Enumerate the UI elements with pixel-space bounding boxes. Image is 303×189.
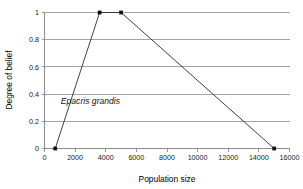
chart-figure: 0200040006000800010000120001400016000 00…: [0, 0, 303, 189]
y-tick-label: 0: [35, 144, 39, 153]
x-tick-label: 0: [43, 153, 47, 162]
x-tick-label: 14000: [249, 153, 269, 162]
chart-plot-area: 0200040006000800010000120001400016000 00…: [0, 0, 303, 189]
x-axis-tick-labels: 0200040006000800010000120001400016000: [43, 153, 300, 162]
data-point-marker: [53, 147, 57, 151]
data-point-marker: [98, 11, 102, 15]
y-axis-tick-labels: 00.20.40.60.81: [29, 8, 39, 153]
x-tick-label: 12000: [218, 153, 238, 162]
x-axis-title: Population size: [139, 174, 196, 184]
data-series-line: [55, 13, 274, 149]
y-tick-label: 0.6: [29, 63, 39, 72]
data-point-marker: [119, 11, 123, 15]
x-tick-label: 8000: [159, 153, 175, 162]
x-tick-label: 4000: [98, 153, 114, 162]
x-tick-label: 2000: [67, 153, 83, 162]
data-series-group: [53, 11, 276, 151]
y-tick-label: 0.2: [29, 117, 39, 126]
y-axis-title: Degree of belief: [4, 50, 14, 110]
y-tick-label: 0.8: [29, 35, 39, 44]
y-tick-label: 0.4: [29, 90, 39, 99]
axis-lines: [45, 13, 290, 149]
series-annotation-label: Epacris grandis: [61, 96, 121, 106]
x-tick-label: 16000: [280, 153, 300, 162]
x-tick-label: 6000: [128, 153, 144, 162]
y-tick-label: 1: [35, 8, 39, 17]
chart-annotations: Epacris grandis: [61, 96, 121, 106]
x-tick-label: 10000: [188, 153, 208, 162]
data-point-marker: [272, 147, 276, 151]
